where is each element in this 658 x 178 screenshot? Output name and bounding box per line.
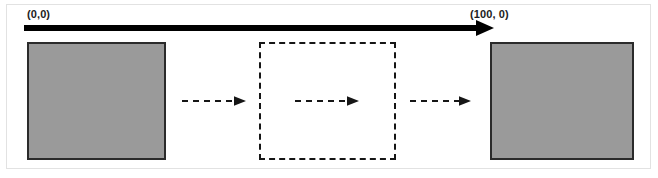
physics-motion-diagram: (0,0) (100, 0) <box>0 0 658 178</box>
motion-arrow-2 <box>294 94 360 108</box>
start-position-block <box>27 42 166 160</box>
end-position-block <box>490 42 634 160</box>
motion-arrow-1 <box>181 94 247 108</box>
motion-arrow-3 <box>409 94 472 108</box>
axis-arrow <box>24 18 496 40</box>
